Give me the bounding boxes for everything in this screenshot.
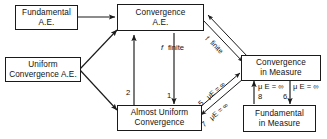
edge-uniform-ae-to-almost-uniform [80, 70, 117, 110]
edge-label-arrow-8: 8 [258, 93, 262, 101]
node-fundamental-in-measure-line-2: in Measure [259, 119, 301, 129]
node-convergence-ae-line-2: A.E. [153, 18, 169, 28]
edge-uniform-ae-to-convergence-ae [80, 30, 117, 69]
node-convergence-in-measure-line-1: Convergence [256, 58, 306, 68]
edge-label-mu-left: μ E = ∞ [258, 83, 284, 91]
node-uniform-convergence-ae-line-1: Uniform [28, 60, 57, 70]
edge-label-arrow-1: 1 [167, 92, 171, 100]
edge-convergence-ae-to-convergence-measure [203, 20, 243, 62]
node-convergence-in-measure-line-2: in Measure [260, 68, 302, 78]
node-fundamental-in-measure[interactable]: Fundamental in Measure [243, 105, 316, 132]
node-convergence-ae-line-1: Convergence [136, 8, 186, 18]
node-almost-uniform-convergence[interactable]: Almost Uniform Convergence [117, 105, 202, 131]
edge-label-mu-right: μ E = ∞ [293, 83, 319, 91]
node-fundamental-ae-line-1: Fundamental [22, 8, 71, 18]
node-convergence-ae[interactable]: Convergence A.E. [117, 4, 204, 31]
node-convergence-in-measure[interactable]: Convergence in Measure [241, 55, 321, 81]
edge-label-f-finite-vertical-f: f [161, 44, 163, 52]
node-almost-uniform-convergence-line-2: Convergence [135, 118, 185, 128]
edge-label-arrow-2: 2 [126, 89, 130, 97]
node-almost-uniform-convergence-line-1: Almost Uniform [131, 108, 188, 118]
node-fundamental-in-measure-line-1: Fundamental [255, 109, 304, 119]
node-fundamental-ae[interactable]: Fundamental A.E. [15, 5, 78, 30]
convergence-relations-diagram: Fundamental A.E. Uniform Convergence A.E… [0, 0, 327, 139]
node-fundamental-ae-line-2: A.E. [39, 18, 55, 28]
edge-label-arrow-6: 6 [283, 93, 287, 101]
node-uniform-convergence-ae-line-2: Convergence A.E. [9, 70, 77, 80]
edge-label-f-finite-vertical-word: finite [168, 44, 184, 52]
node-uniform-convergence-ae[interactable]: Uniform Convergence A.E. [5, 57, 81, 82]
